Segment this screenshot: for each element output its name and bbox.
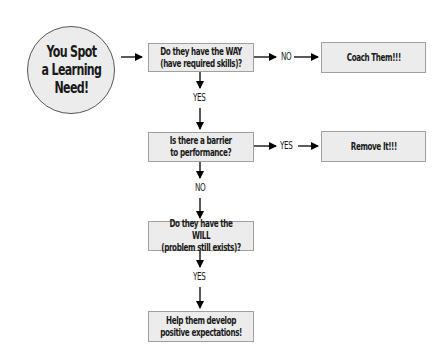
decision-barrier-label: Is there a barrier to performance? <box>170 135 232 159</box>
edge-label-way-yes: YES <box>193 93 206 103</box>
start-node-learning-need: You Spot a Learning Need! <box>27 26 115 114</box>
decision-way-label: Do they have the WAY (have required skil… <box>160 46 242 70</box>
decision-box-will: Do they have the WILL (problem still exi… <box>148 221 254 251</box>
edge-label-will-yes: YES <box>193 272 206 282</box>
action-box-expectations: Help them develop positive expectations! <box>148 311 254 342</box>
outcome-box-coach: Coach Them!!! <box>321 42 426 73</box>
decision-box-barrier: Is there a barrier to performance? <box>148 132 254 162</box>
start-node-label: You Spot a Learning Need! <box>41 43 101 97</box>
outcome-box-remove: Remove It!!! <box>321 131 426 162</box>
outcome-coach-label: Coach Them!!! <box>346 52 400 64</box>
edge-label-way-no: NO <box>281 52 291 62</box>
flowchart-canvas: You Spot a Learning Need! Do they have t… <box>0 0 447 364</box>
outcome-remove-label: Remove It!!! <box>350 141 396 153</box>
edge-label-barrier-no: NO <box>195 183 205 193</box>
decision-will-label: Do they have the WILL (problem still exi… <box>159 218 242 254</box>
decision-box-way: Do they have the WAY (have required skil… <box>148 43 254 72</box>
edge-label-barrier-yes: YES <box>280 141 293 151</box>
action-expectations-label: Help them develop positive expectations! <box>160 315 242 339</box>
